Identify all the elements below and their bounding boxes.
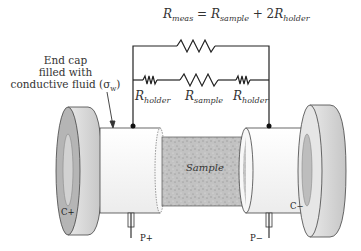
r-sample-sub: sample xyxy=(194,96,223,105)
r-holder-left-sub: holder xyxy=(144,96,170,105)
sample-resistor xyxy=(180,74,218,86)
eq-lhs: R xyxy=(163,7,172,21)
eq-term2-sub: holder xyxy=(283,14,309,23)
left-holder-tube xyxy=(100,128,165,213)
annotation-arrow xyxy=(107,92,115,128)
eq-equals: = xyxy=(197,7,207,21)
circuit xyxy=(133,40,269,125)
left-junction-dot xyxy=(131,124,136,129)
label-r-sample: Rsample xyxy=(185,89,223,105)
resistance-measurement-diagram: Rmeas = Rsample + 2Rholder End cap fille… xyxy=(0,0,361,251)
resistance-equation: Rmeas = Rsample + 2Rholder xyxy=(163,7,361,23)
holder-resistor-left xyxy=(143,76,157,84)
right-end-cap xyxy=(298,105,346,237)
eq-term1-sub: sample xyxy=(220,14,249,23)
eq-term1: R xyxy=(211,7,220,21)
annot-line-3-text: conductive fluid (σ xyxy=(11,78,111,90)
right-electrode-label: C− xyxy=(290,201,304,211)
eq-term2: R xyxy=(274,7,283,21)
right-junction-dot xyxy=(267,124,272,129)
r-holder-right-sub: holder xyxy=(242,96,268,105)
annot-line-1: End cap xyxy=(8,54,123,66)
annot-line-2: filled with xyxy=(8,66,123,78)
label-r-holder-right: Rholder xyxy=(233,89,268,105)
label-r-holder-left: Rholder xyxy=(135,89,170,105)
left-probe-label: P+ xyxy=(140,233,153,243)
annot-close-paren: ) xyxy=(116,78,120,90)
holder-resistor-right xyxy=(236,76,250,84)
annot-line-3: conductive fluid (σw) xyxy=(8,78,123,95)
left-probe xyxy=(128,213,134,238)
top-wire-right xyxy=(215,46,269,125)
right-probe-label: P− xyxy=(250,233,263,243)
sample-label: Sample xyxy=(186,162,224,173)
top-wire-left xyxy=(133,46,177,125)
r-holder-left-symbol: R xyxy=(135,89,144,103)
end-cap-annotation: End cap filled with conductive fluid (σw… xyxy=(8,54,123,95)
eq-plus: + xyxy=(253,7,263,21)
left-electrode-label: C+ xyxy=(61,207,75,217)
r-holder-right-symbol: R xyxy=(233,89,242,103)
r-sample-symbol: R xyxy=(185,89,194,103)
diagram-graphics xyxy=(0,0,361,251)
right-probe xyxy=(266,213,272,238)
top-resistor-zigzag xyxy=(177,40,215,52)
eq-lhs-sub: meas xyxy=(172,14,193,23)
